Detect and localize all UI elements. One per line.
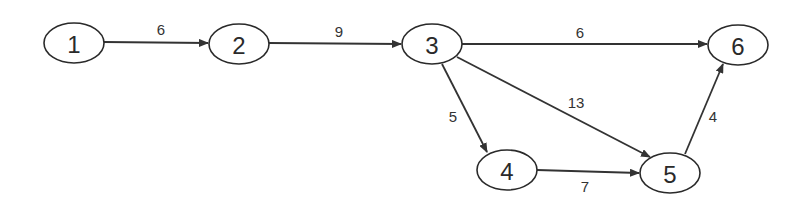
node-1: 1 [44, 23, 104, 63]
edge-arrow [685, 64, 723, 154]
node-label: 1 [67, 31, 80, 58]
edge-weight-label: 6 [576, 24, 584, 41]
node-4: 4 [477, 150, 537, 190]
edge-weight-label: 6 [157, 21, 165, 38]
node-5: 5 [640, 153, 700, 193]
nodes-layer: 123645 [44, 23, 768, 193]
edge-1-to-2: 6 [104, 21, 208, 44]
node-label: 3 [425, 32, 438, 59]
edge-weight-label: 13 [568, 94, 585, 111]
node-label: 4 [500, 158, 513, 185]
edge-weight-label: 5 [449, 108, 457, 125]
network-diagram: 69651374 123645 [0, 0, 800, 207]
edge-3-to-6: 6 [462, 24, 707, 45]
edge-arrow [537, 170, 639, 173]
edge-2-to-3: 9 [269, 23, 401, 45]
node-2: 2 [209, 24, 269, 64]
edge-arrow [269, 43, 401, 44]
edge-3-to-4: 5 [442, 64, 487, 152]
node-label: 6 [731, 33, 744, 60]
edge-weight-label: 7 [581, 178, 589, 195]
edge-arrow [104, 42, 208, 43]
edge-3-to-5: 13 [457, 57, 650, 157]
node-label: 5 [663, 161, 676, 188]
node-label: 2 [232, 32, 245, 59]
edge-arrow [457, 57, 650, 157]
node-6: 6 [708, 25, 768, 65]
node-3: 3 [402, 24, 462, 64]
edge-weight-label: 4 [709, 108, 717, 125]
edge-4-to-5: 7 [537, 170, 639, 195]
edge-5-to-6: 4 [685, 64, 723, 154]
edge-weight-label: 9 [335, 23, 343, 40]
